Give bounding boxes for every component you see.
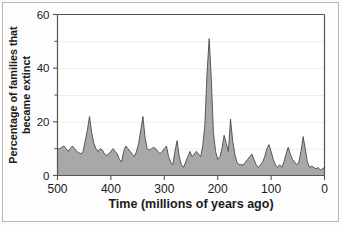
x-axis-tick-labels: 5004003002001000: [47, 182, 328, 196]
x-tick-label-400: 400: [101, 182, 121, 196]
y-tick-label-60: 60: [37, 9, 50, 21]
y-axis-title-line1: Percentage of families that: [7, 26, 19, 164]
x-tick-label-300: 300: [154, 182, 174, 196]
chart-figure: 0204060 5004003002001000 Time (millions …: [0, 0, 342, 225]
y-tick-label-40: 40: [37, 62, 50, 74]
y-axis-tick-labels: 0204060: [37, 9, 50, 182]
y-axis-title-line2: became extinct: [20, 56, 32, 134]
x-tick-label-200: 200: [208, 182, 228, 196]
x-tick-label-0: 0: [321, 182, 328, 196]
y-tick-label-0: 0: [43, 170, 49, 182]
x-tick-label-100: 100: [261, 182, 281, 196]
extinction-rate-chart: 0204060 5004003002001000 Time (millions …: [0, 0, 342, 225]
x-axis-ticks: [58, 176, 325, 181]
x-axis-title: Time (millions of years ago): [108, 197, 273, 211]
y-axis-ticks: [53, 15, 58, 176]
y-tick-label-20: 20: [37, 116, 50, 128]
x-tick-label-500: 500: [47, 182, 67, 196]
